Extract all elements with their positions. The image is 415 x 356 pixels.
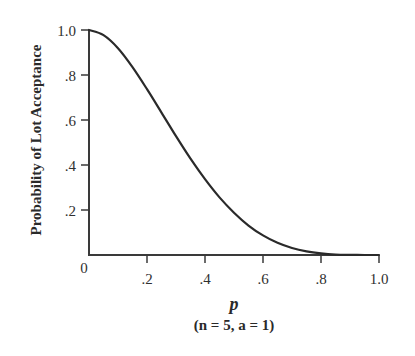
- x-tick-label-0.6: .6: [257, 271, 269, 287]
- x-axis-subtitle: (n = 5, a = 1): [194, 317, 274, 334]
- y-tick-label-0.8: .8: [65, 68, 76, 84]
- y-tick-label-0.4: .4: [65, 158, 77, 174]
- x-tick-label-0.2: .2: [141, 271, 152, 287]
- y-axis-title: Probability of Lot Acceptance: [28, 44, 44, 235]
- y-tick-label-0.6: .6: [65, 113, 77, 129]
- y-tick-label-0.2: .2: [65, 203, 76, 219]
- y-ticks: [81, 30, 89, 210]
- x-tick-label-0.4: .4: [199, 271, 211, 287]
- oc-curve-line: [89, 30, 379, 255]
- x-tick-label-1.0: 1.0: [370, 271, 389, 287]
- x-tick-label-0.8: .8: [315, 271, 326, 287]
- y-tick-labels: 1.0 .8 .6 .4 .2: [57, 23, 76, 219]
- x-ticks: [147, 255, 379, 263]
- y-tick-label-1.0: 1.0: [57, 23, 76, 39]
- origin-label: 0: [80, 260, 88, 276]
- x-tick-labels: .2 .4 .6 .8 1.0: [141, 271, 388, 287]
- x-axis-title: p: [228, 294, 239, 314]
- oc-curve-chart: Probability of Lot Acceptance 1.0 .8 .6 …: [0, 0, 415, 356]
